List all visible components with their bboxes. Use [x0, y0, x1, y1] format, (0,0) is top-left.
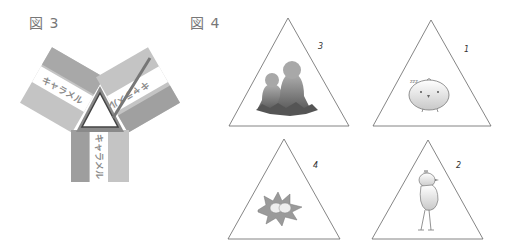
strip-bottom: キャラメル	[71, 130, 129, 182]
diagram-canvas: キャラメル キャラメル キャラメル 3	[0, 0, 517, 252]
card-number: 2	[456, 161, 461, 170]
figure-3-caramel-strips: キャラメル キャラメル キャラメル	[20, 47, 180, 182]
card-4: 4	[228, 139, 340, 239]
card-2: 2	[372, 140, 483, 239]
card-number: 3	[318, 42, 323, 51]
card-1: 1 zzz	[373, 20, 491, 126]
svg-text:zzz: zzz	[410, 78, 418, 84]
strip-bottom-text: キャラメル	[94, 134, 104, 179]
card-3: 3	[229, 18, 349, 126]
card-number: 1	[464, 45, 469, 54]
card-number: 4	[313, 161, 318, 170]
